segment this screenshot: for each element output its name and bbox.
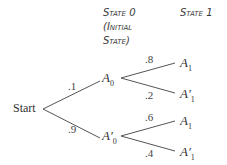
prob-a1-prime-lower: .4 bbox=[145, 147, 153, 159]
node-a1-upper: A1 bbox=[180, 55, 192, 73]
node-a0: A0 bbox=[102, 70, 114, 88]
state-0-header: State 0 (Initial State) bbox=[103, 6, 136, 48]
initial-label: (Initial bbox=[103, 20, 136, 34]
node-a0-prime: A′0 bbox=[102, 128, 117, 146]
node-a1-lower: A1 bbox=[180, 113, 192, 131]
prob-a1-lower: .6 bbox=[145, 111, 153, 123]
state-1-header: State 1 bbox=[180, 6, 213, 20]
prob-a1-prime-upper: .2 bbox=[145, 89, 153, 101]
state-label: State) bbox=[103, 34, 136, 48]
node-a1-prime-upper: A′1 bbox=[180, 86, 195, 104]
prob-a0: .1 bbox=[68, 80, 76, 92]
start-node: Start bbox=[13, 101, 36, 116]
prob-a0-prime: .9 bbox=[68, 123, 76, 135]
state-0-label: State 0 bbox=[103, 6, 136, 20]
prob-a1-upper: .8 bbox=[145, 53, 153, 65]
node-a1-prime-lower: A′1 bbox=[180, 144, 195, 162]
